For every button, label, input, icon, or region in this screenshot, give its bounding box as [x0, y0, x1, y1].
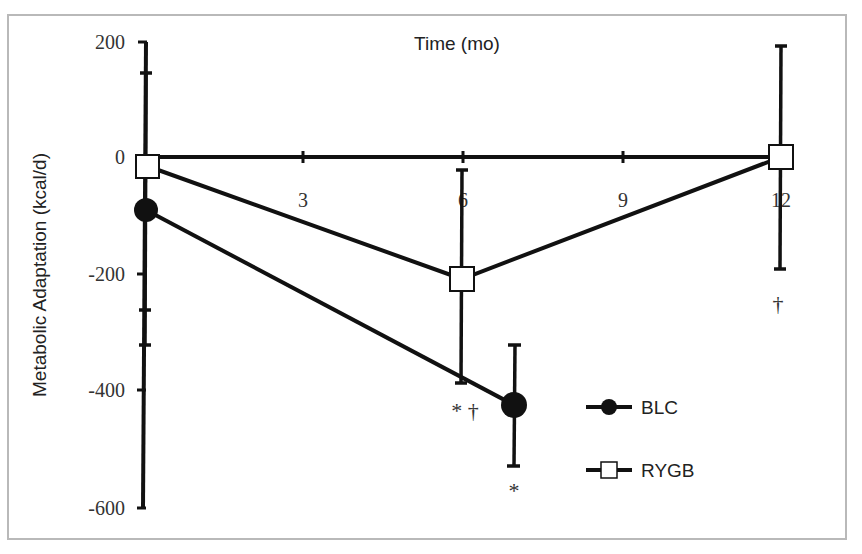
legend-item-rygb: RYGB — [586, 460, 695, 481]
series-blc-line — [146, 210, 514, 405]
x-axis-title: Time (mo) — [414, 33, 500, 54]
legend-rygb-marker-icon — [601, 462, 617, 478]
annotation-rygb-12: † — [773, 291, 784, 316]
y-axis-title: Metabolic Adaptation (kcal/d) — [29, 153, 50, 397]
x-tick-3: 3 — [298, 189, 308, 211]
rygb-point-0[interactable] — [136, 155, 159, 178]
x-axis: 3 6 9 12 Time (mo) — [146, 33, 791, 211]
legend-item-blc: BLC — [586, 397, 678, 418]
x-tick-9: 9 — [618, 189, 628, 211]
y-tick-minus-600: -600 — [88, 497, 125, 519]
y-tick-minus-200: -200 — [88, 263, 125, 285]
y-tick-200: 200 — [95, 31, 125, 53]
annotation-blc-7: * — [509, 478, 520, 503]
legend-label-blc: BLC — [641, 397, 678, 418]
legend-blc-marker-icon — [601, 399, 617, 415]
legend: BLC RYGB — [586, 397, 695, 481]
blc-point-0[interactable] — [134, 198, 158, 222]
rygb-point-12[interactable] — [769, 145, 793, 169]
y-tick-minus-400: -400 — [88, 379, 125, 401]
blc-point-7[interactable] — [501, 392, 527, 418]
annotation-rygb-6: * † — [451, 398, 479, 423]
series-rygb-markers — [136, 145, 793, 291]
chart-svg: 200 0 -200 -400 -600 Metabolic Adaptatio… — [0, 0, 862, 554]
y-tick-0: 0 — [115, 146, 125, 168]
y-axis: 200 0 -200 -400 -600 Metabolic Adaptatio… — [29, 31, 147, 519]
rygb-point-6[interactable] — [450, 267, 474, 291]
legend-label-rygb: RYGB — [641, 460, 695, 481]
